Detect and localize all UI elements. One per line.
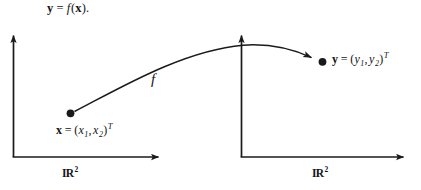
codomain-point-dot [319, 58, 327, 66]
figure-canvas [0, 0, 421, 190]
codomain-component-2: y [369, 52, 375, 66]
codomain-transpose-superscript: T [383, 50, 388, 60]
domain-transpose-superscript: T [107, 121, 112, 131]
domain-equals: = [62, 123, 74, 137]
domain-space-label: IR2 [62, 166, 78, 180]
domain-point-label: x=(x1,x2)T [56, 122, 113, 139]
mapping-function-label: f [151, 72, 155, 87]
codomain-point-label: y=(y1,y2)T [332, 51, 389, 68]
codomain-space-exponent: 2 [323, 165, 328, 174]
caption-equals: = [53, 1, 66, 15]
caption-equation: y=f(x). [47, 2, 89, 15]
caption-period: . [86, 1, 89, 15]
function-mapping-figure: y=f(x). x=(x1,x2)T y=(y1,y2)T f IR2 IR2 [0, 0, 421, 190]
codomain-space-symbol: IR [312, 167, 323, 179]
domain-space-symbol: IR [62, 167, 73, 179]
domain-point-dot [67, 109, 75, 117]
domain-space-exponent: 2 [73, 165, 78, 174]
mapping-arrow [75, 45, 312, 112]
domain-component-2: x [93, 123, 99, 137]
codomain-space-label: IR2 [312, 166, 328, 180]
codomain-equals: = [338, 52, 350, 66]
